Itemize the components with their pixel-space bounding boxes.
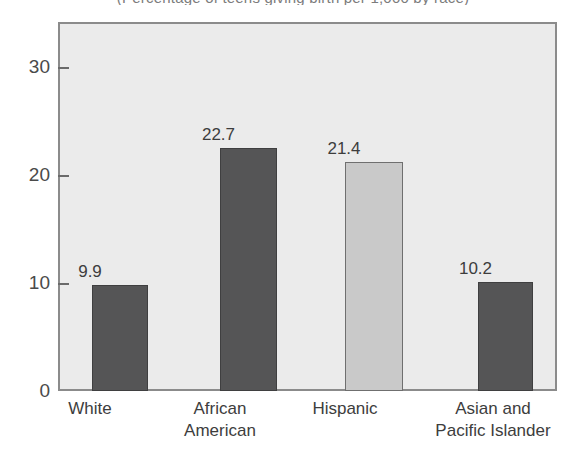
y-axis-labels: 0 10 20 30 [0, 0, 50, 461]
bar-hispanic[interactable] [345, 162, 403, 391]
y-tick-label-30: 30 [6, 56, 50, 78]
x-axis-label-african-american: African American [160, 398, 280, 442]
x-axis-label-hispanic: Hispanic [285, 398, 405, 420]
bar-value-asian-pacific-islander: 10.2 [448, 259, 503, 279]
y-tick-label-20: 20 [6, 164, 50, 186]
bar-asian-pacific-islander[interactable] [478, 282, 533, 391]
bar-african-american[interactable] [220, 148, 277, 391]
x-axis-label-asian-pacific-islander: Asian and Pacific Islander [413, 398, 573, 442]
x-axis-label-white: White [30, 398, 150, 420]
bar-value-african-american: 22.7 [190, 125, 247, 145]
bar-value-hispanic: 21.4 [315, 139, 373, 159]
bar-value-white: 9.9 [62, 262, 118, 282]
bar-white[interactable] [92, 285, 148, 391]
y-tick-label-10: 10 [6, 272, 50, 294]
plot-inner-area [58, 22, 557, 391]
bar-chart: 0 10 20 30 9.9 22.7 21.4 10.2 White Afri… [0, 0, 586, 461]
